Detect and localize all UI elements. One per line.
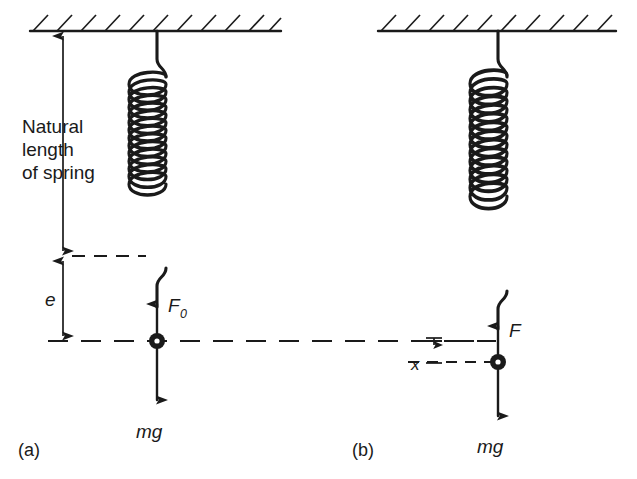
point-mass-highlight-a [154,338,159,343]
spring-mass-figure: Natural length of spring e x F 0 F mg mg… [0,0,637,479]
panel-caption-a: (a) [18,440,40,460]
displacement-label-x: x [410,355,420,374]
spring-force-label-a: F 0 [168,295,187,321]
ceiling-icon-b [378,15,616,31]
coil-spring-icon-b [470,31,507,329]
natural-length-label-line2: length [22,139,74,160]
ceiling-icon-a [30,15,281,31]
panel-caption-b: (b) [352,440,374,460]
spring-force-label-a-subscript: 0 [180,307,187,321]
natural-length-label-line1: Natural [22,116,83,137]
natural-length-label-line3: of spring [22,162,95,183]
physics-diagram: Natural length of spring e x F 0 F mg mg… [0,0,637,479]
spring-force-label-b: F [509,320,522,341]
weight-label-b: mg [477,436,504,457]
weight-label-a: mg [136,421,163,442]
extension-label-e: e [45,289,56,310]
point-mass-highlight-b [495,359,500,364]
panel-a [30,15,492,400]
coil-spring-icon-a [129,31,166,307]
